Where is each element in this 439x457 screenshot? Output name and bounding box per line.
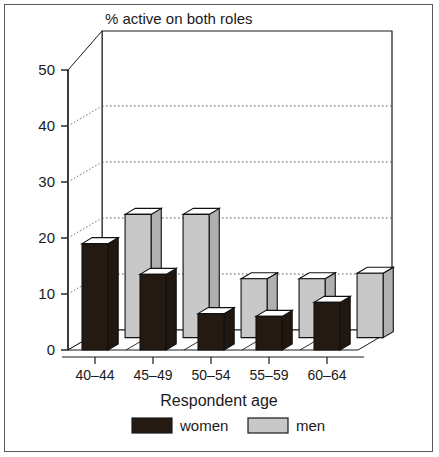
bar-women-40–44[interactable] xyxy=(82,238,118,350)
y-tick-labels: 50 40 30 20 10 0 xyxy=(38,61,55,358)
legend-swatch-men xyxy=(248,418,288,433)
legend-item-women[interactable]: women xyxy=(132,417,228,434)
x-tick-label-3: 50–54 xyxy=(192,367,231,383)
x-tick-labels: 40–44 45–49 50–54 55–59 60–64 xyxy=(76,367,347,383)
x-tick-label-2: 45–49 xyxy=(134,367,173,383)
y-tick-label-20: 20 xyxy=(38,229,55,246)
legend-label-men: men xyxy=(296,417,325,434)
bar-women-55–59[interactable] xyxy=(256,310,292,350)
bar-front-face xyxy=(314,302,340,350)
bar-women-60–64[interactable] xyxy=(314,296,350,350)
y-tick-label-0: 0 xyxy=(47,341,55,358)
bar-front-face xyxy=(357,273,383,337)
bar-side-face xyxy=(383,267,393,337)
bar-side-face xyxy=(108,238,118,350)
bar-side-face xyxy=(340,296,350,350)
bar-side-face xyxy=(224,308,234,350)
bar-front-face xyxy=(198,314,224,350)
y-tick-label-40: 40 xyxy=(38,117,55,134)
legend-label-women: women xyxy=(179,417,228,434)
bar-men-60–64[interactable] xyxy=(357,267,393,337)
legend-swatch-women xyxy=(132,418,172,433)
x-axis-title: Respondent age xyxy=(160,392,278,409)
bar-front-face xyxy=(256,316,282,350)
chart-title: % active on both roles xyxy=(105,10,253,27)
bar-side-face xyxy=(282,310,292,350)
y-tick-label-50: 50 xyxy=(38,61,55,78)
y-tick-label-10: 10 xyxy=(38,285,55,302)
bar-side-face xyxy=(166,268,176,350)
legend: women men xyxy=(132,417,325,434)
x-tick-label-4: 55–59 xyxy=(250,367,289,383)
y-tick-label-30: 30 xyxy=(38,173,55,190)
x-axis xyxy=(62,357,364,364)
bar-women-45–49[interactable] xyxy=(140,268,176,350)
chart-page: % active on both roles 50 40 30 20 1 xyxy=(0,0,439,457)
bar-front-face xyxy=(82,244,108,350)
y-axis xyxy=(61,70,68,350)
bar-chart: % active on both roles 50 40 30 20 1 xyxy=(0,0,439,457)
legend-item-men[interactable]: men xyxy=(248,417,325,434)
x-tick-label-5: 60–64 xyxy=(308,367,347,383)
bar-front-face xyxy=(140,274,166,350)
x-tick-label-1: 40–44 xyxy=(76,367,115,383)
bar-women-50–54[interactable] xyxy=(198,308,234,350)
